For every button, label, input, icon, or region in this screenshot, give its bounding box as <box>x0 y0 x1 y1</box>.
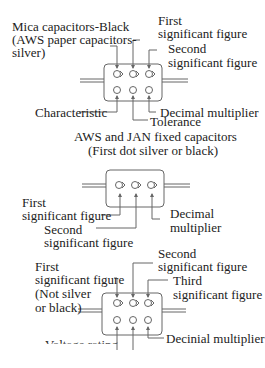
label-mica-silver: silver) <box>12 46 45 59</box>
label-decimal-multiplier: Decinial multiplier <box>166 332 265 345</box>
label-second-sig-2: significant figure <box>44 236 133 249</box>
label-or-black: or black) <box>35 301 82 314</box>
label-first-sig-2: significant figure <box>35 273 124 286</box>
label-not-silver: (Not silver <box>35 287 91 300</box>
label-second-sig-2: significant figure <box>168 56 257 69</box>
label-first-sig-2: significant figure <box>158 27 247 40</box>
label-characteristic: Characteristic <box>35 106 107 119</box>
label-second-sig-2: significant figure <box>158 260 247 273</box>
subtitle-first-dot: (First dot silver or black) <box>88 144 218 157</box>
label-tolerance: Tolerance <box>150 115 201 128</box>
label-second-sig: Second <box>168 42 206 55</box>
label-decimal: Decimal <box>170 207 214 220</box>
title-aws-jan: AWS and JAN fixed capacitors <box>74 130 237 143</box>
label-third-sig-2: significant figure <box>173 288 262 301</box>
label-first-sig-2: significant figure <box>22 209 111 222</box>
label-third-sig: Third <box>173 274 202 287</box>
label-multiplier: multiplier <box>170 221 221 234</box>
